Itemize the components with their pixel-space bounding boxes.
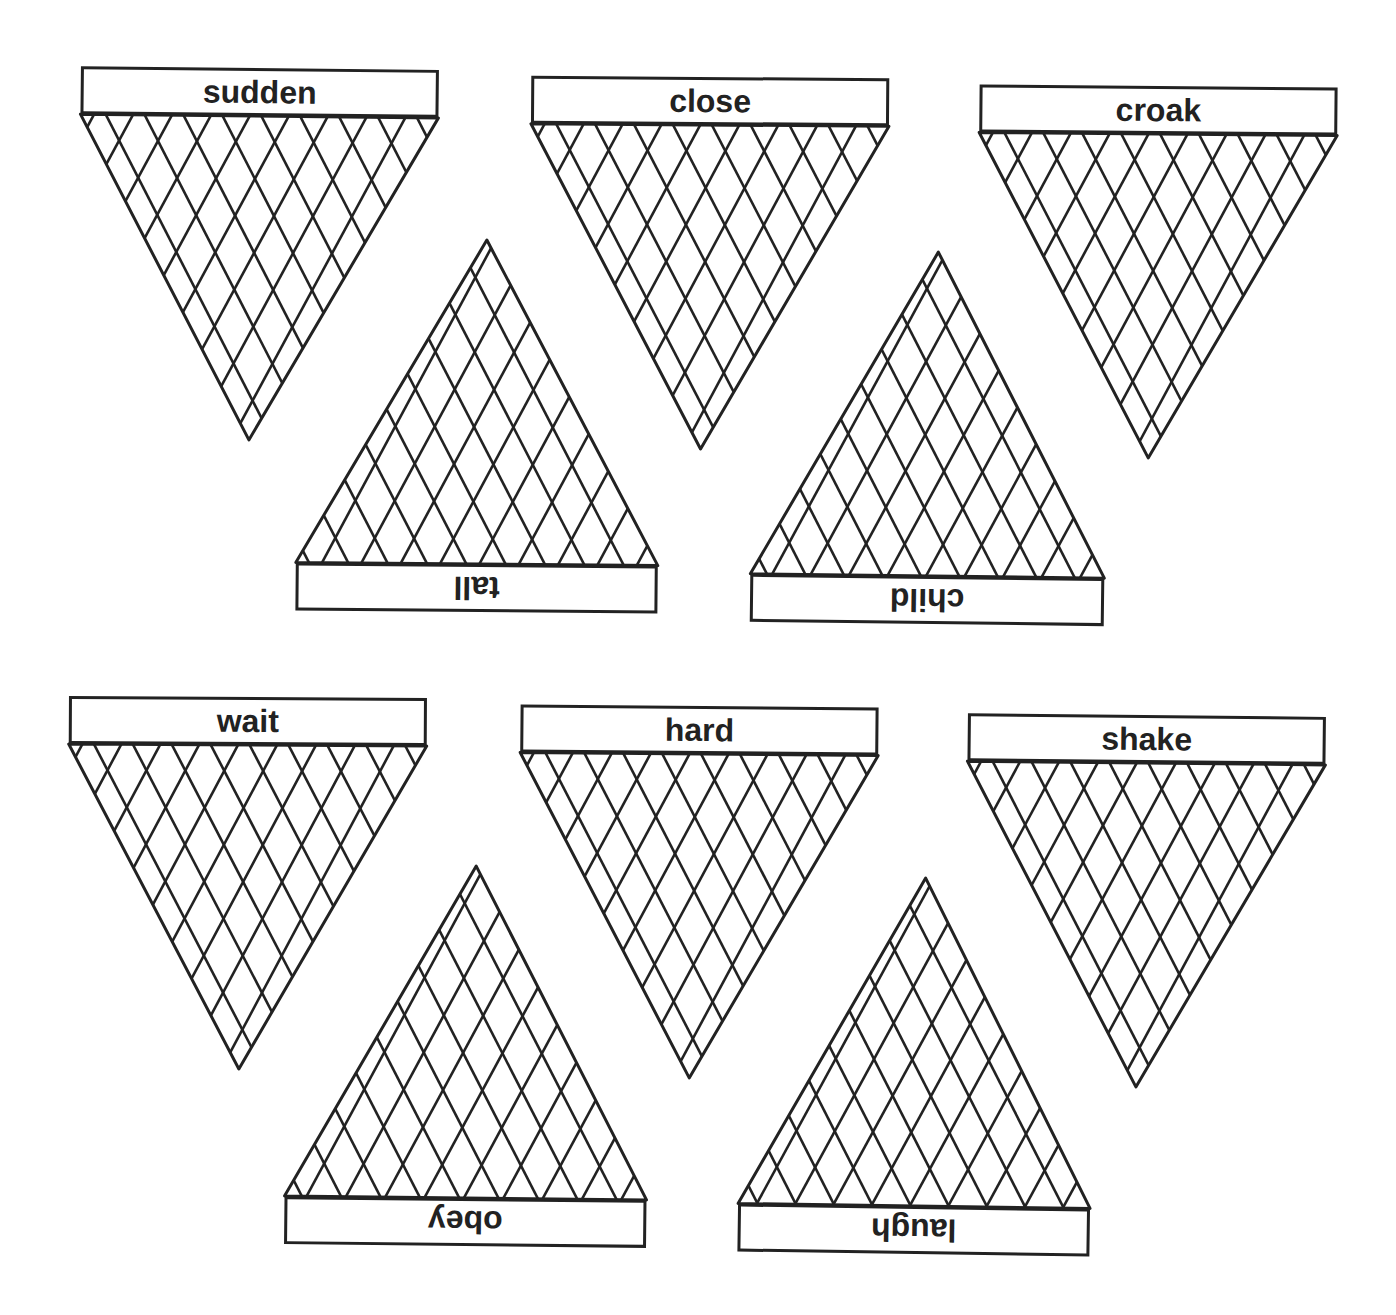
- lattice-triangle-icon: [295, 238, 660, 613]
- pennant-word-label: croak: [979, 92, 1337, 127]
- pennant-word-label: laugh: [738, 1212, 1090, 1249]
- lattice-triangle-icon: [750, 250, 1109, 626]
- pennant-word-label: shake: [968, 721, 1326, 757]
- pennant-word-label: close: [531, 84, 889, 118]
- pennant-child: child: [750, 250, 1109, 626]
- pennant-obey: obey: [284, 864, 650, 1248]
- pennant-word-label: wait: [69, 704, 427, 738]
- pennant-word-label: child: [750, 582, 1104, 618]
- lattice-triangle-icon: [284, 864, 650, 1248]
- lattice-triangle-icon: [737, 876, 1094, 1257]
- pennant-laugh: laugh: [737, 876, 1094, 1257]
- pennant-word-label: hard: [520, 712, 878, 747]
- pennant-word-label: obey: [284, 1204, 646, 1240]
- pennant-word-label: tall: [295, 570, 657, 605]
- pennant-tall: tall: [295, 238, 660, 613]
- pennant-word-label: sudden: [81, 74, 439, 110]
